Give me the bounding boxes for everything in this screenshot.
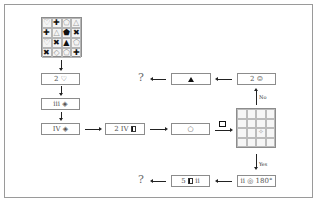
- step-box-text: IV ◈: [53, 125, 68, 133]
- arrow-head-icon: [254, 167, 258, 170]
- arrow-head-icon: [254, 88, 258, 91]
- arrow-head-icon: [59, 68, 63, 71]
- grid-cell: ✚: [52, 18, 62, 28]
- grid-cell: ✚: [71, 48, 81, 58]
- grid-cell: [247, 128, 257, 138]
- step-box-5: ○: [171, 123, 210, 135]
- grid-cell: ✖: [52, 38, 62, 48]
- yes-branch-box-2: 5 ii: [171, 175, 210, 187]
- grid-cell: [237, 109, 247, 119]
- step-box-text: 2 ♡: [54, 75, 67, 83]
- step-box-text: 2 ☺: [250, 75, 263, 83]
- step-box-4: 2 IV: [105, 123, 145, 135]
- arrow-head-icon: [150, 77, 153, 81]
- grid-cell: ✖: [42, 48, 52, 58]
- grid-cell: △: [71, 18, 81, 28]
- arrow-left: [218, 79, 232, 80]
- grid-cell: ⬠: [62, 48, 72, 58]
- arrow-head-icon: [99, 127, 102, 131]
- arrow-head-icon: [215, 179, 218, 183]
- arrow-head-icon: [215, 77, 218, 81]
- grid-cell: [266, 138, 276, 148]
- step-box-text: iii ◈: [53, 100, 67, 108]
- grid-cell: [256, 109, 266, 119]
- step-box-1: 2 ♡: [41, 73, 80, 85]
- arrow-right: [215, 130, 230, 131]
- grid-cell: ⬠: [71, 38, 81, 48]
- grid-cell: [237, 138, 247, 148]
- square-stamp-icon: [219, 121, 226, 127]
- grid-cell: [247, 138, 257, 148]
- grid-cell: [266, 128, 276, 138]
- no-branch-box-2: [171, 73, 211, 85]
- target-grid: ✧: [236, 108, 276, 148]
- grid-cell: [266, 119, 276, 129]
- arrow-head-icon: [59, 93, 63, 96]
- step-box-2: iii ◈: [41, 98, 80, 110]
- arrow-head-icon: [230, 128, 233, 132]
- grid-cell: ✖: [71, 28, 81, 38]
- grid-cell: ♡: [42, 38, 52, 48]
- arrow-up: [256, 91, 257, 105]
- yes-branch-box-1: ii ◎ 180°: [237, 175, 276, 187]
- grid-cell: [237, 128, 247, 138]
- step-box-suffix: ii: [195, 177, 199, 185]
- grid-cell: ♡: [42, 18, 52, 28]
- grid-cell: ⬠: [62, 18, 72, 28]
- step-box-text: ii ◎ 180°: [241, 177, 273, 185]
- no-label: No: [259, 94, 266, 100]
- half-filled-square-icon: [188, 178, 193, 184]
- arrow-head-icon: [150, 179, 153, 183]
- source-symbol-grid: ♡ ✚ ⬠ △ ✚ △ ⬟ ✖ ♡ ✖ ▲ ⬠ ✖ ◇ ⬠ ✚: [41, 17, 82, 57]
- step-box-text: ○: [187, 125, 193, 133]
- arrow-left: [153, 181, 166, 182]
- step-box-3: IV ◈: [41, 123, 80, 135]
- grid-cell: [256, 119, 266, 129]
- arrow-right: [150, 129, 165, 130]
- arrow-left: [153, 79, 166, 80]
- no-branch-result: ?: [138, 72, 144, 83]
- half-filled-square-icon: [131, 126, 136, 132]
- no-branch-box-1: 2 ☺: [237, 73, 276, 85]
- arrow-left: [218, 181, 232, 182]
- grid-cell: ⬟: [62, 28, 72, 38]
- yes-branch-result: ?: [138, 174, 144, 185]
- grid-cell: ◇: [52, 48, 62, 58]
- grid-cell: [247, 109, 257, 119]
- arrow-head-icon: [59, 118, 63, 121]
- arrow-head-icon: [165, 127, 168, 131]
- grid-cell: [237, 119, 247, 129]
- grid-cell: △: [52, 28, 62, 38]
- grid-cell: [247, 119, 257, 129]
- step-box-text: 2 IV: [114, 125, 129, 133]
- grid-cell-marked: ✧: [256, 128, 266, 138]
- arrow-right: [85, 129, 99, 130]
- filled-triangle-icon: [188, 77, 194, 82]
- step-box-prefix: 5: [181, 177, 185, 185]
- grid-cell: ▲: [62, 38, 72, 48]
- arrow-down: [256, 154, 257, 167]
- grid-cell: [256, 138, 266, 148]
- grid-cell: [266, 109, 276, 119]
- grid-cell: ✚: [42, 28, 52, 38]
- yes-label: Yes: [259, 161, 267, 167]
